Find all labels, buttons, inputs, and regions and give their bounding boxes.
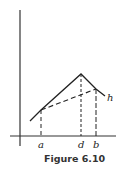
label-a: a bbox=[38, 139, 44, 150]
label-d: d bbox=[78, 139, 84, 150]
figure-6-10-diagram: a d b h Figure 6.10 bbox=[0, 0, 125, 171]
figure-caption: Figure 6.10 bbox=[44, 153, 106, 164]
label-b: b bbox=[93, 139, 99, 150]
label-h: h bbox=[107, 92, 113, 103]
secant-chord-a-b bbox=[41, 89, 96, 110]
